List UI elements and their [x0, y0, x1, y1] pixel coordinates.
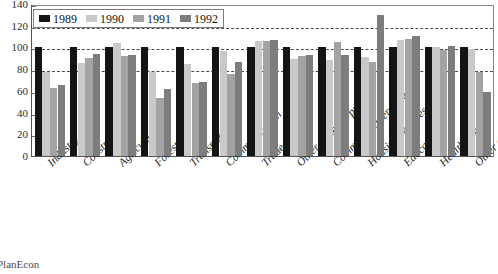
bar [35, 47, 42, 156]
legend-swatch-icon [133, 15, 144, 22]
legend-swatch-icon [39, 15, 50, 22]
legend-entry: 1992 [180, 13, 218, 25]
bar [318, 47, 325, 156]
bar [263, 41, 270, 156]
bars-layer [32, 6, 493, 156]
bar [377, 15, 384, 156]
legend-label: 1989 [53, 13, 77, 25]
bar [227, 74, 234, 157]
bar [354, 47, 361, 156]
y-tick-label: 20 [2, 129, 28, 140]
bar [460, 47, 467, 156]
bar [405, 39, 412, 156]
bar [105, 47, 112, 156]
bar-group [280, 6, 315, 156]
bar-group [138, 6, 173, 156]
bar-group [458, 6, 493, 156]
bar [440, 50, 447, 156]
bar [476, 72, 483, 156]
bar [141, 47, 148, 156]
bar [483, 92, 490, 156]
bar [247, 47, 254, 156]
y-tick-label: 120 [2, 21, 28, 32]
bar [468, 49, 475, 156]
legend-swatch-icon [180, 15, 191, 22]
legend-swatch-icon [86, 15, 97, 22]
bar [412, 36, 419, 157]
bar [326, 60, 333, 156]
bar [290, 59, 297, 156]
bar [448, 46, 455, 156]
x-axis-labels: IndustryConstructionAgricultureForestryT… [31, 158, 494, 253]
bar-group [351, 6, 386, 156]
bar [235, 62, 242, 156]
y-axis: 020406080100120140 [0, 0, 28, 164]
bar [149, 72, 156, 156]
bar-group [174, 6, 209, 156]
y-tick-label: 140 [2, 0, 28, 10]
source-note: PlanEcon [0, 258, 39, 270]
bar-group [67, 6, 102, 156]
bar [199, 82, 206, 156]
bar-group [209, 6, 244, 156]
bar-group [387, 6, 422, 156]
bar [212, 47, 219, 156]
bar [334, 42, 341, 156]
legend-label: 1991 [147, 13, 171, 25]
bar-group [103, 6, 138, 156]
bar [156, 98, 163, 156]
y-tick-label: 0 [2, 151, 28, 162]
bar [389, 47, 396, 156]
bar [113, 43, 120, 156]
bar [425, 47, 432, 156]
bar [128, 55, 135, 156]
bar [121, 56, 128, 156]
bar [220, 51, 227, 156]
legend-entry: 1991 [133, 13, 171, 25]
bar [255, 41, 262, 156]
y-tick-label: 80 [2, 64, 28, 75]
y-tick-label: 100 [2, 42, 28, 53]
bar [78, 63, 85, 156]
bar [184, 64, 191, 156]
bar-group [245, 6, 280, 156]
bar [42, 72, 49, 156]
bar [70, 47, 77, 156]
bar [306, 55, 313, 156]
y-tick-label: 60 [2, 86, 28, 97]
bar [85, 58, 92, 156]
bar [58, 85, 65, 156]
bar-group [316, 6, 351, 156]
bar [93, 54, 100, 156]
bar [369, 62, 376, 156]
bar [164, 89, 171, 156]
bar-group [32, 6, 67, 156]
legend-label: 1992 [194, 13, 218, 25]
bar-group [422, 6, 457, 156]
legend-label: 1990 [100, 13, 124, 25]
bar [283, 47, 290, 156]
bar [397, 40, 404, 156]
bar [176, 47, 183, 156]
bar [192, 83, 199, 156]
legend-entry: 1990 [86, 13, 124, 25]
bar [432, 47, 439, 156]
bar [361, 57, 368, 156]
bar [50, 88, 57, 156]
legend: 1989199019911992 [33, 9, 224, 28]
bar [298, 56, 305, 156]
bar [341, 55, 348, 156]
legend-entry: 1989 [39, 13, 77, 25]
y-tick-label: 40 [2, 108, 28, 119]
bar [270, 40, 277, 156]
chart-figure: 020406080100120140 1989199019911992 Indu… [0, 0, 498, 274]
